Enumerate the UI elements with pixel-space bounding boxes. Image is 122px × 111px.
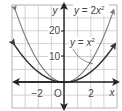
parabola-chart: 20 10 −2 O 2 x y y = 2x2 y = x2 — [0, 0, 122, 111]
y-tick-label-20: 20 — [49, 25, 61, 36]
x-tick-label-2: 2 — [88, 88, 94, 99]
curve-label-2x-squared: y = 2x2 — [73, 5, 105, 16]
y-tick-label-10: 10 — [49, 51, 61, 62]
y-axis-label: y — [52, 5, 59, 16]
x-axis-label: x — [109, 87, 116, 98]
x-tick-label-neg2: −2 — [31, 88, 43, 99]
origin-label: O — [54, 88, 62, 99]
